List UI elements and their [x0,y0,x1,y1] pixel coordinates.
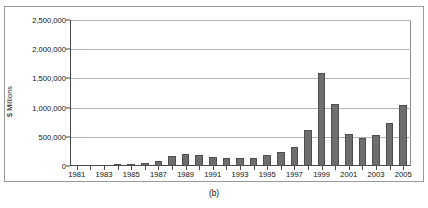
x-axis-tick-label: 1985 [123,170,140,179]
x-axis-tick-mark [349,166,350,170]
x-axis-tick-mark [90,166,91,170]
bar-1991 [209,157,217,166]
x-axis-tick-mark [131,166,132,170]
x-axis-tick-label: 1987 [150,170,167,179]
x-axis-tick-mark [172,166,173,170]
bar-1995 [263,155,271,166]
x-axis-tick-mark [308,166,309,170]
bar-1992 [223,158,231,166]
bar-2000 [331,104,339,166]
x-axis-tick-mark [267,166,268,170]
x-axis-tick-mark [376,166,377,170]
bar-2003 [372,135,380,166]
x-axis-tick-mark [403,166,404,170]
x-axis-tick-mark [226,166,227,170]
x-axis-tick-mark [335,166,336,170]
x-axis-tick-label: 1997 [286,170,303,179]
bar-1996 [277,152,285,166]
plot-right-border [410,20,411,166]
figure-caption: (b) [0,188,428,198]
bar-1990 [195,155,203,166]
x-axis-tick-label: 1981 [68,170,85,179]
x-axis-tick-mark [158,166,159,170]
x-axis-tick-mark [145,166,146,170]
x-axis-tick-label: 1989 [177,170,194,179]
x-axis-tick-mark [186,166,187,170]
x-axis-tick-labels: 1981198319851987198919911993199519971999… [70,170,410,182]
bar-2001 [345,134,353,166]
x-axis-tick-label: 1983 [96,170,113,179]
x-axis-tick-mark [104,166,105,170]
bar-2005 [399,105,407,166]
x-axis-tick-mark [362,166,363,170]
bar-1998 [304,130,312,166]
x-axis-tick-mark [390,166,391,170]
bar-1993 [236,158,244,166]
bar-1989 [182,154,190,166]
x-axis-tick-mark [254,166,255,170]
x-axis-tick-mark [294,166,295,170]
x-axis-tick-mark [118,166,119,170]
x-axis-tick-label: 2003 [368,170,385,179]
x-axis-tick-mark [281,166,282,170]
bar-1997 [291,147,299,166]
bar-1994 [250,158,258,166]
bar-2002 [359,138,367,166]
figure-panel: $ Millions 2,500,0002,000,0001,500,0001,… [0,0,428,208]
x-axis-tick-label: 2001 [340,170,357,179]
x-axis-tick-mark [77,166,78,170]
bar-1999 [318,73,326,166]
x-axis-tick-mark [199,166,200,170]
plot-area [70,20,410,166]
bar-2004 [386,123,394,166]
x-axis-tick-label: 1993 [232,170,249,179]
x-axis-tick-mark [213,166,214,170]
bar-1988 [168,156,176,166]
x-axis-tick-mark [322,166,323,170]
x-axis-tick-label: 1991 [204,170,221,179]
x-axis-tick-label: 1999 [313,170,330,179]
x-axis-tick-label: 2005 [395,170,412,179]
x-axis-tick-mark [240,166,241,170]
y-axis-tick-marks [0,20,70,166]
bar-series [70,20,410,166]
x-axis-tick-label: 1995 [259,170,276,179]
